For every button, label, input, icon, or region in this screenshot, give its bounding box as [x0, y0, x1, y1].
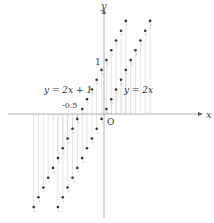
axes — [8, 9, 203, 218]
data-point — [144, 29, 147, 32]
function-graph: x y O 1 -0.5 y = 2x + 1 y = 2x — [0, 0, 214, 223]
data-point — [62, 147, 65, 150]
data-point — [120, 29, 123, 32]
data-point — [37, 196, 40, 199]
data-point — [62, 196, 65, 199]
data-point — [86, 98, 89, 101]
data-point — [125, 20, 128, 23]
data-point — [125, 69, 128, 72]
data-point — [66, 137, 69, 140]
data-point — [57, 206, 60, 209]
data-point — [149, 20, 152, 23]
y-axis-label: y — [100, 0, 107, 11]
data-point — [42, 186, 45, 189]
x-tick-label-neg-0-5: -0.5 — [62, 101, 77, 110]
data-point — [76, 167, 79, 170]
data-point — [91, 137, 94, 140]
data-point — [105, 59, 108, 62]
data-point — [100, 69, 103, 72]
data-point — [110, 49, 113, 52]
data-point — [76, 118, 79, 121]
data-point — [52, 167, 55, 170]
data-point — [139, 39, 142, 42]
data-point — [105, 108, 108, 111]
data-point — [47, 176, 50, 179]
y-tick-label-1: 1 — [95, 57, 101, 67]
origin-label: O — [107, 117, 114, 127]
data-point — [115, 88, 118, 91]
data-point — [120, 78, 123, 81]
data-point — [100, 118, 103, 121]
data-point — [71, 127, 74, 130]
data-point — [115, 39, 118, 42]
data-point — [81, 108, 84, 111]
data-point — [95, 127, 98, 130]
x-axis-label: x — [206, 109, 212, 120]
data-point — [134, 49, 137, 52]
data-point — [57, 157, 60, 160]
line-label-2x-plus-1: y = 2x + 1 — [43, 85, 92, 95]
data-point — [71, 176, 74, 179]
data-point — [81, 157, 84, 160]
data-point — [66, 186, 69, 189]
data-point — [86, 147, 89, 150]
line-label-2x: y = 2x — [123, 85, 153, 95]
data-point — [95, 78, 98, 81]
data-point — [129, 59, 132, 62]
data-point — [110, 98, 113, 101]
x-axis-arrow-icon — [198, 112, 203, 116]
data-point — [32, 206, 35, 209]
